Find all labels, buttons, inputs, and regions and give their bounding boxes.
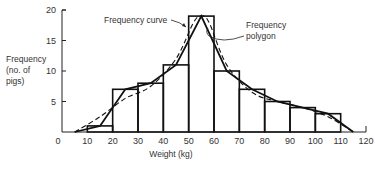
y-tick-label: 5 (51, 97, 56, 107)
y-axis-label-line-1: Frequency (6, 54, 47, 64)
histogram-bar (113, 89, 138, 132)
x-tick-label: 20 (108, 136, 118, 146)
y-tick-label: 10 (46, 66, 56, 76)
y-axis-label-line-3: pigs) (6, 76, 25, 86)
histogram-bar (290, 108, 315, 132)
histogram-bar (138, 83, 163, 132)
x-tick-label: 50 (184, 136, 194, 146)
x-tick-label: 120 (358, 136, 373, 146)
x-tick-label: 0 (55, 136, 60, 146)
annotation-frequency-polygon-line-2: polygon (246, 31, 276, 41)
x-tick-label: 100 (308, 136, 323, 146)
x-tick-label: 90 (285, 136, 295, 146)
x-tick-label: 10 (82, 136, 92, 146)
annotation-frequency-curve: Frequency curve (104, 15, 168, 25)
histogram-bar (214, 71, 239, 132)
y-tick-label: 20 (46, 5, 56, 15)
axis-ticks: 01020304050607080901001101205101520 (46, 5, 374, 146)
x-tick-label: 70 (234, 136, 244, 146)
histogram-bar (265, 102, 290, 133)
x-tick-label: 60 (209, 136, 219, 146)
histogram-bar (163, 65, 188, 132)
x-tick-label: 80 (260, 136, 270, 146)
x-tick-label: 40 (158, 136, 168, 146)
annotation-frequency-polygon-line-1: Frequency (246, 20, 287, 30)
y-axis-label-line-2: (no. of (6, 65, 31, 75)
histogram-bar (239, 89, 264, 132)
y-tick-label: 15 (46, 36, 56, 46)
x-tick-label: 30 (133, 136, 143, 146)
histogram-chart: 01020304050607080901001101205101520 Freq… (0, 0, 375, 169)
x-axis-label: Weight (kg) (149, 149, 192, 159)
x-tick-label: 110 (333, 136, 347, 146)
